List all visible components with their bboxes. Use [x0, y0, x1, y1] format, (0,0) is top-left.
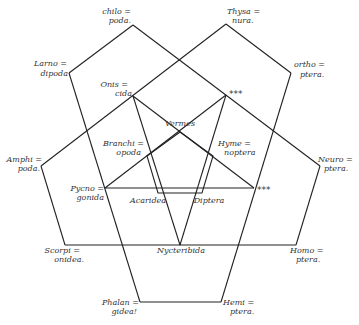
label-hemiptera: Hemi =ptera. — [222, 298, 254, 316]
label-scorpionidea: Scorpi =onidea. — [44, 246, 84, 264]
label-hymenoptera: Hyme =noptera — [217, 139, 256, 157]
label-acaridea: Acaridea — [129, 196, 166, 205]
label-nycteribida: Nycteribida — [156, 246, 205, 255]
label-orthoptera: ortho =ptera. — [294, 60, 325, 79]
label-larnodipoda: Larno =dipoda — [33, 59, 68, 78]
edge-thysa-ortho — [226, 24, 291, 73]
label-chilopoda: chilo =poda. — [102, 7, 131, 25]
label-thysanura: Thysa =nura. — [227, 7, 260, 25]
label-neuroptera: Neuro =ptera. — [317, 155, 353, 173]
label-homoptera: Homo =ptera. — [289, 246, 323, 264]
label-vermes: Vermes — [165, 119, 195, 128]
inner-pentagon-vermes — [147, 132, 213, 193]
venn-diagram: chilo =poda. Thysa =nura. Larno =dipoda … — [0, 0, 359, 325]
marker-top-asterisks: *** — [229, 89, 243, 99]
edge-chilo-larno — [69, 25, 133, 73]
label-pycnogonida: Pycno =gonida — [69, 184, 104, 202]
edge-neuro-homo — [296, 166, 320, 245]
label-diptera: Diptera — [193, 196, 225, 205]
label-oniscida: Onis =cida — [100, 80, 132, 98]
marker-right-asterisks: *** — [257, 185, 271, 195]
label-branchiopoda: Branchi =opoda — [102, 139, 144, 157]
label-phalangidea: Phalan =gidea! — [101, 298, 139, 316]
label-amphipoda: Amphi =poda. — [6, 155, 42, 173]
edge-amphi-scorpi — [41, 166, 65, 245]
edge-stTop-nyct — [180, 95, 226, 245]
